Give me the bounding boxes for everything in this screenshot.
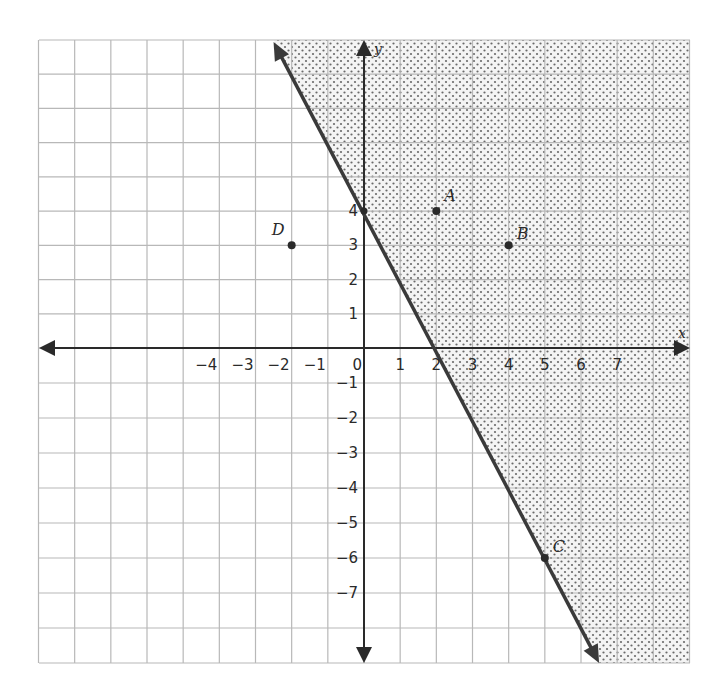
y-tick-label: −7: [336, 584, 358, 602]
y-tick-label: −4: [336, 479, 358, 497]
y-tick-label: 4: [348, 202, 358, 220]
x-tick-label: 2: [432, 356, 442, 374]
point-c: [541, 554, 549, 562]
x-tick-label: −4: [195, 356, 217, 374]
y-axis-label: y: [373, 41, 383, 57]
x-tick-label: 4: [504, 356, 514, 374]
y-tick-label: −6: [336, 549, 358, 567]
point-label-d: D: [271, 220, 285, 239]
point-d: [288, 241, 296, 249]
shaded-region: [274, 40, 690, 663]
point-label-c: C: [553, 537, 565, 556]
solution-region: [274, 40, 690, 663]
y-tick-label: −2: [336, 409, 358, 427]
y-intercept-point: [361, 208, 368, 215]
x-tick-label: 7: [612, 356, 622, 374]
x-tick-label: −2: [268, 356, 290, 374]
x-tick-label: 3: [468, 356, 478, 374]
x-tick-label: 5: [540, 356, 550, 374]
x-axis-arrow-left-icon: [39, 340, 55, 356]
point-b: [505, 241, 513, 249]
point-label-a: A: [442, 186, 456, 205]
y-tick-label: 1: [348, 305, 358, 323]
point-label-b: B: [516, 224, 529, 243]
y-tick-label: −3: [336, 444, 358, 462]
y-tick-label: 2: [348, 271, 358, 289]
x-tick-label: 6: [576, 356, 586, 374]
x-axis-label: x: [678, 325, 686, 341]
y-axis-arrow-down-icon: [356, 647, 372, 663]
x-tick-label: −1: [304, 356, 326, 374]
x-tick-label: 1: [395, 356, 405, 374]
coordinate-plane: yx −4−3−2−1012345674321−1−2−3−4−5−6−7 AB…: [0, 0, 724, 696]
y-tick-label: 3: [348, 236, 358, 254]
x-tick-label: −3: [231, 356, 253, 374]
y-tick-label: −1: [336, 374, 358, 392]
y-tick-label: −5: [336, 514, 358, 532]
point-a: [432, 207, 440, 215]
x-tick-label: 0: [352, 356, 362, 374]
